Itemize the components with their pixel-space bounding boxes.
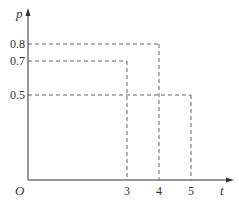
- y-tick-label: 0.7: [10, 54, 25, 68]
- y-tick-labels: 0.80.70.5: [10, 37, 25, 102]
- origin-label: O: [15, 183, 25, 198]
- chart: t p O 345 0.80.70.5: [0, 0, 239, 206]
- y-tick-label: 0.8: [10, 37, 25, 51]
- x-tick-label: 4: [156, 184, 162, 198]
- x-tick-labels: 345: [124, 184, 194, 198]
- guide-lines: [28, 44, 191, 180]
- y-axis-arrow-icon: [26, 8, 31, 16]
- x-axis-arrow-icon: [226, 178, 234, 183]
- x-axis-label: t: [220, 183, 224, 198]
- y-tick-label: 0.5: [10, 88, 25, 102]
- x-tick-label: 3: [124, 184, 130, 198]
- x-tick-label: 5: [188, 184, 194, 198]
- y-axis-label: p: [15, 6, 23, 21]
